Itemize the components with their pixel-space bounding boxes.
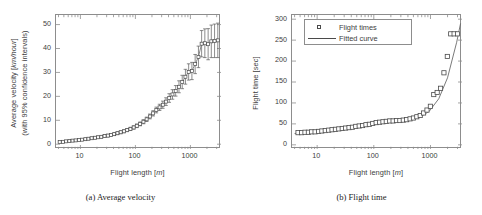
a-y-tick-50: 50: [21, 19, 51, 28]
panel-a-y-axis-label: Average velocity [km/hour]: [9, 10, 18, 156]
a-y-tick-40: 40: [21, 43, 51, 52]
a-y-tick-30: 30: [21, 67, 51, 76]
panel-average-velocity: Average velocity [km/hour] (with 95% con…: [0, 0, 241, 215]
panel-b-legend: Flight times Fitted curve: [304, 19, 412, 45]
b-x-tick-1000: 1000: [414, 151, 444, 160]
legend-entry-fitted-curve: Fitted curve: [305, 33, 378, 44]
b-y-tick-150: 150: [257, 76, 287, 85]
legend-label-fitted-curve: Fitted curve: [339, 34, 378, 43]
panel-a-y-axis-label-line1: Average velocity [km/hour]: [9, 38, 18, 128]
panel-a-y-axis-label-secondary: (with 95% confidence intervals): [20, 10, 29, 156]
a-x-tick-100: 100: [119, 151, 149, 160]
a-y-tick-20: 20: [21, 91, 51, 100]
b-y-tick-0: 0: [257, 139, 287, 148]
legend-label-flight-times: Flight times: [339, 23, 377, 32]
panel-b-plot-area: Flight times Fitted curve: [291, 14, 461, 148]
open-square-icon: [305, 22, 339, 33]
panel-flight-time: Flight time [sec] Flight times Fitted cu…: [241, 0, 482, 215]
line-icon: [305, 33, 339, 44]
figure-two-panel: Average velocity [km/hour] (with 95% con…: [0, 0, 482, 215]
a-y-tick-0: 0: [21, 139, 51, 148]
a-x-tick-10: 10: [64, 151, 94, 160]
b-y-tick-50: 50: [257, 118, 287, 127]
b-y-tick-100: 100: [257, 97, 287, 106]
panel-a-caption: (a) Average velocity: [0, 192, 241, 202]
b-y-tick-200: 200: [257, 55, 287, 64]
panel-a-x-axis-label: Flight length [m]: [55, 168, 220, 177]
panel-a-plot-area: [55, 14, 220, 148]
panel-a-plot-svg: [56, 15, 221, 149]
b-y-tick-250: 250: [257, 35, 287, 44]
b-x-tick-100: 100: [358, 151, 388, 160]
legend-entry-flight-times: Flight times: [305, 22, 377, 33]
panel-b-x-axis-label: Flight length [m]: [291, 168, 461, 177]
b-y-tick-300: 300: [257, 14, 287, 23]
a-x-tick-1000: 1000: [174, 151, 204, 160]
a-y-tick-10: 10: [21, 115, 51, 124]
panel-b-caption: (b) Flight time: [241, 192, 482, 202]
b-x-tick-10: 10: [301, 151, 331, 160]
